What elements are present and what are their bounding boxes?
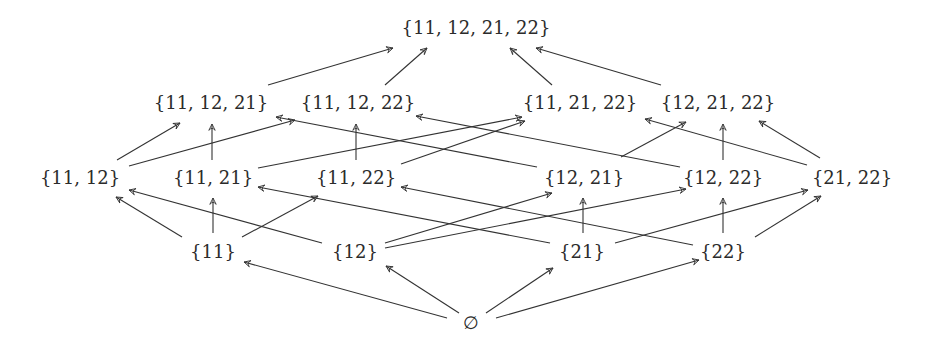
edge-arrow-b3-to-a3 <box>401 121 525 164</box>
edge-arrow-empty-to-c4 <box>496 260 699 318</box>
edge-arrow-c1-to-b1 <box>116 197 182 237</box>
edge-arrow-b4-to-a4 <box>621 122 686 157</box>
edge-layer <box>0 0 926 348</box>
edge-arrow-empty-to-c1 <box>244 262 447 318</box>
edge-arrow-c1-to-b3 <box>242 196 318 237</box>
edge-arrow-empty-to-c2 <box>386 266 459 313</box>
edge-arrow-b6-to-a3 <box>645 119 807 165</box>
node-b4: {12, 21} <box>544 169 624 187</box>
node-a3: {11, 21, 22} <box>523 94 638 112</box>
node-a1: {11, 12, 21} <box>154 94 269 112</box>
node-c2: {12} <box>332 243 378 261</box>
node-empty: ∅ <box>463 314 479 332</box>
node-b1: {11, 12} <box>40 169 120 187</box>
node-c4: {22} <box>700 243 746 261</box>
node-b3: {11, 22} <box>316 169 396 187</box>
node-a2: {11, 12, 22} <box>301 94 416 112</box>
edge-arrow-empty-to-c3 <box>486 268 553 313</box>
edge-arrow-c3-to-b2 <box>258 187 550 243</box>
edge-arrow-a2-to-top <box>385 48 427 85</box>
node-b6: {21, 22} <box>812 169 892 187</box>
edge-arrow-b2-to-a3 <box>258 117 522 168</box>
hasse-diagram: {11, 12, 21, 22}{11, 12, 21}{11, 12, 22}… <box>0 0 926 348</box>
edge-arrow-a1-to-top <box>268 48 393 85</box>
node-top: {11, 12, 21, 22} <box>402 19 551 37</box>
edge-arrow-c2-to-b1 <box>129 190 322 243</box>
node-c3: {21} <box>559 243 605 261</box>
edge-arrow-b5-to-a2 <box>416 116 680 167</box>
edge-arrow-b6-to-a4 <box>759 121 820 158</box>
edge-arrow-a3-to-top <box>510 48 552 85</box>
node-b5: {12, 22} <box>683 169 763 187</box>
node-b2: {11, 21} <box>173 169 253 187</box>
edge-arrow-b4-to-a1 <box>276 117 537 167</box>
edge-arrow-a4-to-top <box>536 48 661 85</box>
node-a4: {12, 21, 22} <box>661 94 776 112</box>
node-c1: {11} <box>190 243 236 261</box>
